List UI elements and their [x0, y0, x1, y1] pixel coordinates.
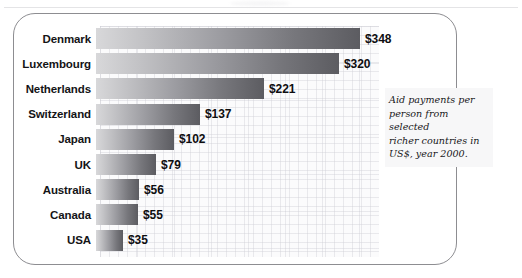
bar-australia [96, 179, 139, 200]
value-label-netherlands: $221 [269, 82, 295, 96]
bar-denmark [96, 28, 360, 49]
bar-usa [96, 230, 123, 251]
bar-track: $56 [96, 177, 457, 202]
bar-switzerland [96, 104, 200, 125]
category-label-canada: Canada [0, 209, 96, 221]
bar-canada [96, 204, 138, 225]
bar-track: $35 [96, 228, 457, 253]
value-label-luxembourg: $320 [344, 57, 370, 71]
value-label-switzerland: $137 [205, 107, 231, 121]
category-label-japan: Japan [0, 133, 96, 145]
category-label-luxembourg: Luxembourg [0, 58, 96, 70]
category-label-australia: Australia [0, 184, 96, 196]
category-label-usa: USA [0, 234, 96, 246]
scan-artifact-smudge [230, 1, 290, 6]
bar-luxembourg [96, 53, 339, 74]
bar-row: Canada $55 [0, 202, 457, 227]
chart-figure: Denmark $348 Luxembourg $320 Netherlands… [0, 0, 522, 278]
value-label-australia: $56 [144, 183, 164, 197]
bar-row: Luxembourg $320 [0, 51, 457, 76]
bar-track: $55 [96, 202, 457, 227]
value-label-usa: $35 [128, 233, 148, 247]
bar-row: Australia $56 [0, 177, 457, 202]
value-label-denmark: $348 [365, 32, 391, 46]
bar-row: USA $35 [0, 228, 457, 253]
bar-japan [96, 129, 174, 150]
category-label-uk: UK [0, 159, 96, 171]
value-label-japan: $102 [179, 132, 205, 146]
caption-note-box: Aid payments per person from selected ri… [385, 88, 493, 167]
category-label-denmark: Denmark [0, 33, 96, 45]
bar-track: $320 [96, 51, 457, 76]
value-label-canada: $55 [143, 208, 163, 222]
bar-netherlands [96, 78, 264, 99]
value-label-uk: $79 [161, 158, 181, 172]
bar-uk [96, 154, 156, 175]
category-label-netherlands: Netherlands [0, 83, 96, 95]
scan-artifact-line [4, 7, 518, 8]
caption-note-text: Aid payments per person from selected ri… [389, 93, 489, 161]
bar-track: $348 [96, 26, 457, 51]
bar-row: Denmark $348 [0, 26, 457, 51]
category-label-switzerland: Switzerland [0, 108, 96, 120]
